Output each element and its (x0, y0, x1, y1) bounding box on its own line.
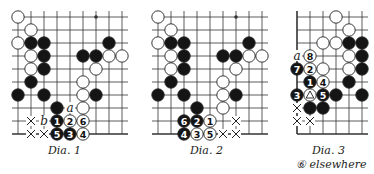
white-stone (165, 50, 177, 62)
go-board-3: a8721435 (280, 0, 374, 150)
move-number: 4 (181, 129, 188, 140)
black-stone (38, 89, 50, 101)
black-stone (191, 102, 203, 114)
white-stone (12, 11, 24, 23)
black-stone (356, 37, 368, 49)
white-stone (343, 50, 355, 62)
move-number: 3 (67, 129, 74, 140)
black-stone (51, 102, 63, 114)
white-stone (256, 50, 268, 62)
white-stone (103, 50, 115, 62)
go-diagram-3: a8721435 Dia. 3 ⑥ elsewhere (280, 0, 374, 150)
black-stone (38, 50, 50, 62)
white-stone (90, 63, 102, 75)
move-number: 6 (181, 116, 188, 127)
diagram-caption-3: Dia. 3 (312, 144, 345, 157)
move-number: 2 (67, 116, 74, 127)
white-stone (243, 50, 255, 62)
black-stone (38, 63, 50, 75)
go-board-1: ab126534 (0, 0, 140, 150)
move-number: 5 (54, 129, 61, 140)
go-diagram-2: 621435 Dia. 2 (140, 0, 280, 150)
white-stone (330, 37, 342, 49)
black-stone (304, 102, 316, 114)
star-point (234, 15, 238, 19)
move-number: 8 (307, 51, 314, 62)
white-stone (343, 63, 355, 75)
black-stone (243, 37, 255, 49)
move-number: 7 (294, 64, 301, 75)
white-stone (343, 24, 355, 36)
white-stone (217, 102, 229, 114)
white-stone (152, 11, 164, 23)
move-number: 1 (207, 116, 214, 127)
black-stone (38, 37, 50, 49)
black-stone (178, 50, 190, 62)
white-stone (230, 63, 242, 75)
black-stone (330, 89, 342, 101)
white-stone (317, 63, 329, 75)
black-stone (356, 50, 368, 62)
black-stone (103, 37, 115, 49)
white-stone (77, 76, 89, 88)
move-number: 2 (307, 64, 314, 75)
white-stone (77, 102, 89, 114)
black-stone (178, 37, 190, 49)
black-stone (178, 89, 190, 101)
go-board-2: 621435 (140, 0, 280, 150)
white-stone (25, 24, 37, 36)
white-stone (165, 63, 177, 75)
letter-label: a (293, 49, 300, 63)
black-stone (356, 63, 368, 75)
white-stone (317, 37, 329, 49)
move-number: 4 (320, 77, 327, 88)
white-stone (116, 50, 128, 62)
black-stone (217, 50, 229, 62)
white-stone (12, 37, 24, 49)
white-stone (77, 89, 89, 101)
black-stone (165, 76, 177, 88)
black-stone (12, 89, 24, 101)
go-diagram-1: ab126534 Dia. 1 (0, 0, 140, 150)
move-number: 2 (194, 116, 201, 127)
black-stone (317, 102, 329, 114)
black-stone (356, 89, 368, 101)
move-number: 5 (320, 90, 327, 101)
black-stone (230, 89, 242, 101)
black-stone (90, 89, 102, 101)
star-point (94, 15, 98, 19)
black-stone (230, 50, 242, 62)
letter-label: a (66, 101, 73, 115)
move-number: 3 (294, 90, 301, 101)
black-stone (25, 76, 37, 88)
move-number: 4 (80, 129, 87, 140)
white-stone (25, 50, 37, 62)
black-stone (165, 37, 177, 49)
white-stone (152, 37, 164, 49)
move-number: 5 (207, 129, 214, 140)
white-stone (217, 89, 229, 101)
black-stone (25, 37, 37, 49)
move-number: 6 (80, 116, 87, 127)
black-stone (343, 37, 355, 49)
white-stone (330, 11, 342, 23)
white-stone (217, 76, 229, 88)
black-stone (343, 76, 355, 88)
black-stone (77, 50, 89, 62)
white-stone (25, 63, 37, 75)
move-number: 3 (194, 129, 201, 140)
move-number: 1 (54, 116, 61, 127)
black-stone (90, 50, 102, 62)
letter-label: b (40, 114, 48, 128)
black-stone (152, 89, 164, 101)
diagram-note-elsewhere: ⑥ elsewhere (296, 158, 366, 171)
move-number: 1 (307, 77, 314, 88)
diagram-caption-1: Dia. 1 (48, 144, 81, 157)
black-stone (178, 63, 190, 75)
diagram-caption-2: Dia. 2 (190, 144, 223, 157)
white-stone (165, 24, 177, 36)
